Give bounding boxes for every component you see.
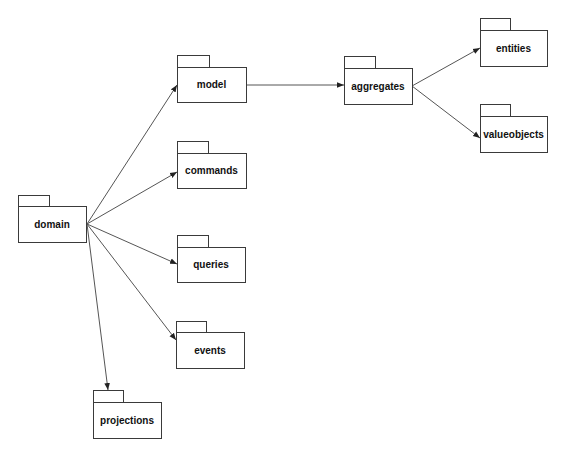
package-tab xyxy=(178,142,209,154)
dependency-arrow-domain-to-queries xyxy=(87,224,177,264)
package-label: aggregates xyxy=(351,81,405,92)
package-events[interactable]: events xyxy=(177,322,245,369)
dependency-arrow-domain-to-commands xyxy=(87,172,177,224)
package-label: entities xyxy=(496,43,531,54)
package-label: projections xyxy=(100,415,154,426)
dependency-arrow-aggregates-to-valueobjects xyxy=(412,86,480,138)
package-domain[interactable]: domain xyxy=(19,196,87,243)
package-aggregates[interactable]: aggregates xyxy=(345,57,413,105)
package-commands[interactable]: commands xyxy=(178,142,247,189)
package-label: domain xyxy=(34,219,70,230)
dependency-arrow-aggregates-to-entities xyxy=(412,48,480,86)
package-label: queries xyxy=(193,259,229,270)
dependency-arrow-domain-to-projections xyxy=(87,224,108,390)
package-label: model xyxy=(197,79,227,90)
package-tab xyxy=(94,391,124,403)
package-tab xyxy=(19,196,50,207)
package-projections[interactable]: projections xyxy=(94,391,162,439)
dependency-arrow-domain-to-events xyxy=(87,224,176,340)
package-entities[interactable]: entities xyxy=(481,19,548,67)
package-tab xyxy=(481,19,511,31)
dependency-arrow-domain-to-model xyxy=(87,85,177,224)
package-queries[interactable]: queries xyxy=(178,236,246,283)
package-model[interactable]: model xyxy=(178,56,247,103)
package-label: commands xyxy=(185,165,238,176)
package-tab xyxy=(178,56,210,68)
package-label: events xyxy=(194,345,226,356)
package-tab xyxy=(345,57,376,69)
package-diagram: domainmodelcommandsquerieseventsprojecti… xyxy=(0,0,565,454)
package-label: valueobjects xyxy=(483,129,544,140)
dependency-arrows xyxy=(87,48,480,390)
package-tab xyxy=(481,105,511,117)
package-valueobjects[interactable]: valueobjects xyxy=(481,105,548,153)
package-tab xyxy=(178,236,209,248)
package-tab xyxy=(177,322,207,333)
